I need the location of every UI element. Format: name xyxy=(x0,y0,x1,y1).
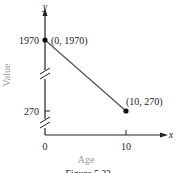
x-axis-label: Age xyxy=(78,154,95,165)
chart-canvas: y x 1970 270 0 10 (0, 1970) (10, 270) Ag… xyxy=(0,0,175,173)
x-tick-label-0: 0 xyxy=(43,141,48,152)
figure-caption: Figure 5.?? xyxy=(66,168,112,173)
point-annotation-start: (0, 1970) xyxy=(51,35,88,47)
data-point-end xyxy=(123,108,128,113)
x-axis-arrow-icon xyxy=(160,133,168,138)
y-tick-label-270: 270 xyxy=(24,106,39,117)
data-point-start xyxy=(42,37,47,42)
y-axis-label: Value xyxy=(1,63,12,86)
point-annotation-end: (10, 270) xyxy=(126,96,163,108)
data-line xyxy=(45,40,126,111)
y-axis-symbol: y xyxy=(42,1,48,12)
x-tick-label-10: 10 xyxy=(121,141,131,152)
x-axis-symbol: x xyxy=(168,129,174,140)
y-tick-label-1970: 1970 xyxy=(19,35,39,46)
